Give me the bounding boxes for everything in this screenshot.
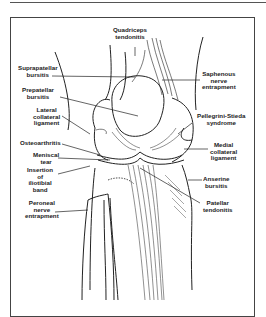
label-meniscal-tear: Meniscal tear <box>33 152 59 165</box>
label-lateral-collateral-ligament: Lateral collateral ligament <box>33 107 60 127</box>
label-quadriceps-tendonitis: Quadriceps tendonitis <box>113 27 147 40</box>
label-patellar-tendonitis: Patellar tendonitis <box>203 200 233 213</box>
label-insertion-iliotibial-band: Insertion of iliotibial band <box>27 167 53 193</box>
label-saphenous-nerve-entrapment: Saphenous nerve entrapment <box>202 71 236 91</box>
label-osteoarthritis: Osteoarthritis <box>20 140 61 147</box>
label-suprapatellar-bursitis: Suprapatellar bursitis <box>18 65 58 78</box>
label-prepatellar-bursitis: Prepatellar bursitis <box>22 87 54 100</box>
label-peroneal-nerve-entrapment: Peroneal nerve entrapment <box>25 200 59 220</box>
label-medial-collateral-ligament: Medial collateral ligament <box>210 142 237 162</box>
label-pellegrini-stieda-syndrome: Pellegrini-Stieda syndrome <box>197 113 245 126</box>
label-anserine-bursitis: Anserine bursitis <box>203 176 229 189</box>
